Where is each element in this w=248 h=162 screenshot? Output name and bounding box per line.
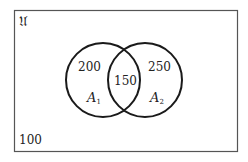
universe-label: 𝔘 xyxy=(19,15,27,28)
outside-value: 100 xyxy=(19,134,42,146)
a1-label: A1 xyxy=(87,91,101,106)
a1-only-value: 200 xyxy=(78,61,101,73)
intersection-value: 150 xyxy=(114,75,137,87)
a2-label: A2 xyxy=(150,91,164,106)
a2-only-value: 250 xyxy=(148,61,171,73)
